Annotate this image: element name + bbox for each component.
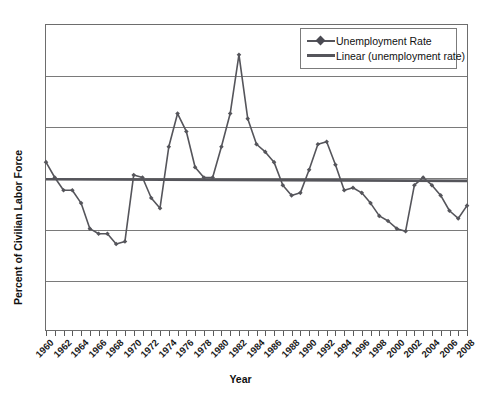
x-axis-tick-mark [300, 331, 301, 336]
x-axis-tick-mark [432, 331, 433, 336]
x-axis-tick-mark [81, 331, 82, 336]
x-axis-title: Year [0, 373, 481, 385]
legend-label-unemployment-rate: Unemployment Rate [336, 35, 432, 47]
x-axis-tick-mark [90, 331, 91, 336]
x-axis-tick-mark [143, 331, 144, 336]
x-axis-tick-mark [55, 331, 56, 336]
x-axis-tick-mark [178, 331, 179, 336]
y-axis-title: Percent of Civilian Labor Force [12, 105, 24, 305]
x-axis-tick-mark [46, 331, 47, 336]
x-axis-tick-mark [414, 331, 415, 336]
x-axis-tick-mark [186, 331, 187, 336]
plot-area [45, 24, 468, 331]
gridline-4 [46, 230, 467, 231]
legend-marker-diamond-line-icon [306, 35, 336, 47]
x-axis-tick-mark [116, 331, 117, 336]
x-axis-tick-mark [204, 331, 205, 336]
x-axis-tick-mark [450, 331, 451, 336]
x-axis-tick-mark [371, 331, 372, 336]
x-axis-tick-mark [230, 331, 231, 336]
x-axis-tick-mark [160, 331, 161, 336]
chart-legend: Unemployment Rate Linear (unemployment r… [300, 28, 457, 69]
x-axis-tick-mark [248, 331, 249, 336]
x-axis-tick-mark [134, 331, 135, 336]
x-axis-tick-mark [397, 331, 398, 336]
x-axis-tick-mark [265, 331, 266, 336]
x-axis-tick-mark [318, 331, 319, 336]
gridline-2 [46, 281, 467, 282]
x-axis-tick-mark [72, 331, 73, 336]
x-axis-tick-mark [441, 331, 442, 336]
legend-marker-line-icon [306, 50, 336, 62]
x-axis-tick-mark [353, 331, 354, 336]
legend-item-linear-trend: Linear (unemployment rate) [306, 48, 451, 63]
x-axis-tick-mark [327, 331, 328, 336]
x-axis-tick-mark [195, 331, 196, 336]
y-axis-title-wrap: Percent of Civilian Labor Force [14, 250, 15, 251]
gridline-8 [46, 127, 467, 128]
x-axis-tick-mark [335, 331, 336, 336]
x-axis-tick-mark [213, 331, 214, 336]
x-axis-tick-mark [274, 331, 275, 336]
x-axis-tick-mark [64, 331, 65, 336]
x-axis-tick-mark [151, 331, 152, 336]
legend-item-unemployment-rate: Unemployment Rate [306, 33, 451, 48]
x-axis-tick-mark [309, 331, 310, 336]
x-axis-tick-mark [467, 331, 468, 336]
x-axis-tick-mark [125, 331, 126, 336]
x-axis-tick-mark [423, 331, 424, 336]
x-axis-tick-mark [292, 331, 293, 336]
chart-container: 12 10 8 6 4 2 0 Percent of Civilian Labo… [0, 0, 481, 397]
x-axis-tick-mark [257, 331, 258, 336]
gridline-6 [46, 178, 467, 179]
legend-label-linear-trend: Linear (unemployment rate) [336, 50, 465, 62]
x-axis-tick-mark [362, 331, 363, 336]
x-axis-tick-mark [458, 331, 459, 336]
x-axis-tick-mark [388, 331, 389, 336]
gridline-10 [46, 76, 467, 77]
x-axis-tick-mark [406, 331, 407, 336]
x-axis-tick-mark [239, 331, 240, 336]
x-axis-tick-mark [344, 331, 345, 336]
x-axis-tick-mark [99, 331, 100, 336]
x-axis-tick-mark [283, 331, 284, 336]
x-axis-tick-mark [221, 331, 222, 336]
x-axis-tick-mark [107, 331, 108, 336]
x-axis-tick-mark [169, 331, 170, 336]
x-axis-tick-mark [379, 331, 380, 336]
